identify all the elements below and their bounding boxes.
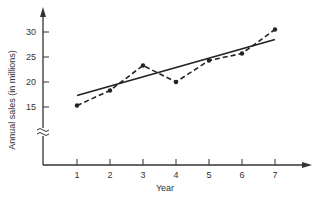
y-tick-label: 30 <box>26 27 36 37</box>
x-tick-label: 3 <box>140 170 145 180</box>
data-point-marker <box>75 103 79 107</box>
series-layer <box>75 27 277 107</box>
data-point-marker <box>141 63 145 67</box>
x-tick-label: 7 <box>272 170 277 180</box>
x-tick-label: 1 <box>74 170 79 180</box>
data-point-marker <box>174 80 178 84</box>
y-axis-label: Annual sales (in millions) <box>7 50 17 150</box>
y-axis-arrow-icon <box>40 7 46 17</box>
line-chart: 15202530 1234567 Year Annual sales (in m… <box>0 0 318 200</box>
x-tick-label: 2 <box>107 170 112 180</box>
data-point-marker <box>108 88 112 92</box>
data-point-marker <box>273 27 277 31</box>
trend-line <box>77 40 275 96</box>
x-tick-label: 5 <box>206 170 211 180</box>
x-axis: 1234567 <box>43 159 312 180</box>
y-tick-label: 15 <box>26 102 36 112</box>
y-tick-label: 25 <box>26 52 36 62</box>
x-axis-label: Year <box>156 183 174 193</box>
x-tick-label: 6 <box>239 170 244 180</box>
data-point-marker <box>240 51 244 55</box>
y-axis: 15202530 <box>26 7 49 165</box>
x-axis-arrow-icon <box>302 162 312 168</box>
y-tick-label: 20 <box>26 77 36 87</box>
x-tick-label: 4 <box>173 170 178 180</box>
